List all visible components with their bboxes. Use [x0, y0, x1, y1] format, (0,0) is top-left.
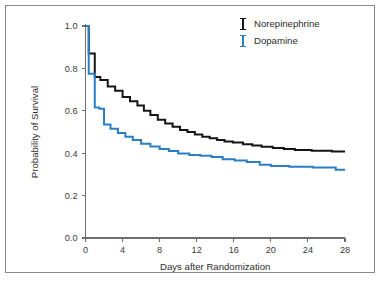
- x-axis-tick-label: 28: [340, 245, 350, 255]
- x-axis-tick-label: 24: [303, 245, 313, 255]
- y-axis-tick-label: 0.0: [65, 233, 78, 243]
- legend-item-label: Dopamine: [254, 35, 298, 46]
- legend-item[interactable]: Norepinephrine: [240, 18, 320, 29]
- y-axis-tick-label: 0.4: [65, 149, 78, 159]
- x-axis-tick-label: 16: [229, 245, 239, 255]
- survival-chart: 0.00.20.40.60.81.00481216202428Days afte…: [0, 0, 380, 289]
- axes: 0.00.20.40.60.81.00481216202428Days afte…: [29, 21, 350, 272]
- figure-container: 0.00.20.40.60.81.00481216202428Days afte…: [0, 0, 380, 289]
- x-axis-tick-label: 12: [192, 245, 202, 255]
- y-axis-tick-label: 1.0: [65, 21, 78, 31]
- y-axis-tick-label: 0.8: [65, 64, 78, 74]
- x-axis-title: Days after Randomization: [160, 261, 270, 272]
- x-axis-tick-label: 4: [120, 245, 125, 255]
- x-axis-tick-label: 20: [266, 245, 276, 255]
- chart-legend[interactable]: NorepinephrineDopamine: [240, 18, 320, 46]
- y-axis-tick-label: 0.2: [65, 191, 78, 201]
- y-axis-title: Probability of Survival: [29, 86, 40, 178]
- x-axis-tick-label: 0: [83, 245, 88, 255]
- x-axis-tick-label: 8: [157, 245, 162, 255]
- curves: [86, 26, 346, 170]
- legend-item-label: Norepinephrine: [254, 18, 320, 29]
- legend-item[interactable]: Dopamine: [240, 35, 298, 46]
- y-axis-tick-label: 0.6: [65, 106, 78, 116]
